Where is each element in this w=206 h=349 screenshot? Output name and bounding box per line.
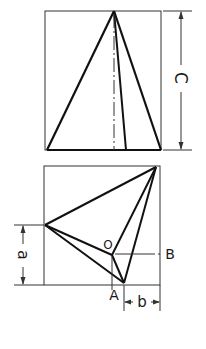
plan-view: O B A a b — [14, 166, 175, 311]
plan-edge-bottom-topright — [124, 167, 156, 283]
projection-drawing: C O B A a b — [0, 0, 206, 349]
a-arrow-up-icon — [21, 225, 26, 233]
point-a-label: A — [109, 287, 119, 303]
dim-a-label: a — [14, 250, 33, 260]
b-arrow-right-icon — [153, 300, 160, 305]
a-arrow-down-icon — [21, 277, 26, 285]
elevation-right-edge — [114, 11, 161, 150]
c-arrow-up-icon — [179, 11, 184, 19]
point-o-label: O — [103, 238, 112, 252]
plan-edge-o-topright — [112, 167, 156, 255]
c-arrow-down-icon — [179, 142, 184, 150]
plan-edge-left-topright — [45, 167, 156, 225]
dim-c-label: C — [171, 72, 191, 84]
elevation-view: C — [45, 11, 192, 150]
b-arrow-left-icon — [124, 300, 131, 305]
dim-b-label: b — [137, 293, 147, 311]
elevation-left-edge — [47, 11, 114, 150]
point-b-label: B — [165, 246, 175, 262]
